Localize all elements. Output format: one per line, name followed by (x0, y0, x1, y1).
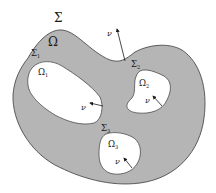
label-omega: Ω (48, 35, 58, 49)
domain-diagram: Σ Ω Σ1 Σ2 Σ3 Ω1 Ω2 Ω3 ν ν ν ν (0, 0, 216, 193)
outer-normal-arrow (117, 29, 125, 61)
diagram-svg: Σ Ω Σ1 Σ2 Σ3 Ω1 Ω2 Ω3 ν ν ν ν (0, 0, 216, 193)
label-sigma-outer: Σ (54, 11, 62, 25)
label-nu-2: ν (145, 96, 150, 105)
label-nu-1: ν (81, 103, 86, 112)
label-nu-3: ν (115, 157, 120, 166)
label-nu-outer: ν (107, 29, 112, 38)
hole-omega-3 (99, 133, 140, 175)
